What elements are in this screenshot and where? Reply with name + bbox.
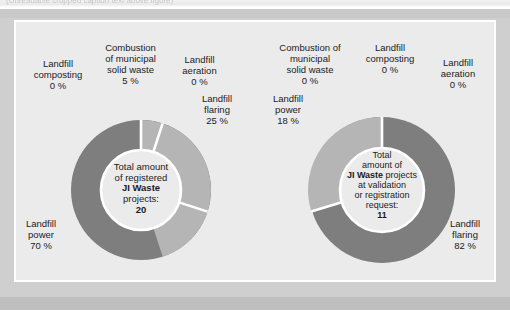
- center-line-3: JI Waste: [347, 170, 383, 180]
- center-value: 11: [307, 210, 457, 220]
- center-line-4: projects:: [72, 194, 210, 205]
- label-combustion-msw-left: Combustion of municipal solid waste 5 %: [93, 42, 168, 86]
- charts-panel: Landfill composting 0 % Combustion of mu…: [14, 20, 496, 282]
- center-line-5: or registration: [307, 190, 457, 200]
- caption-remnant-text: (Unreadable cropped caption text above f…: [6, 0, 173, 5]
- label-combustion-msw-right: Combustion of municipal solid waste 0 %: [268, 42, 352, 86]
- center-line-2: amount of: [307, 160, 457, 170]
- label-landfill-composting-right: Landfill composting 0 %: [357, 42, 423, 75]
- label-landfill-aeration-right: Landfill aeration 0 %: [427, 57, 489, 90]
- center-line-3b: projects: [383, 170, 417, 180]
- center-text-validation: Total amount of JI Waste projects at val…: [307, 150, 457, 221]
- center-line-3-row: JI Waste projects: [307, 170, 457, 180]
- label-landfill-aeration-left: Landfill aeration 0 %: [168, 54, 231, 87]
- center-line-1: Total: [307, 150, 457, 160]
- center-value: 20: [72, 205, 210, 216]
- center-line-4: at validation: [307, 180, 457, 190]
- chart-validation-registration-projects: Combustion of municipal solid waste 0 % …: [259, 22, 498, 280]
- center-text-registered: Total amount of registered JI Waste proj…: [72, 162, 210, 215]
- label-landfill-composting-left: Landfill composting 0 %: [22, 58, 94, 91]
- figure-bottom-bar: [0, 297, 510, 310]
- label-landfill-power-left: Landfill power 70 %: [10, 218, 72, 251]
- caption-remnant: (Unreadable cropped caption text above f…: [0, 0, 510, 7]
- figure-screenshot: (Unreadable cropped caption text above f…: [0, 0, 510, 313]
- center-line-6: request:: [307, 200, 457, 210]
- chart-registered-projects: Landfill composting 0 % Combustion of mu…: [16, 22, 259, 280]
